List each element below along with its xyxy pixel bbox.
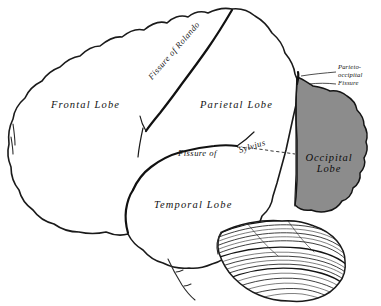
label-parietal-lobe: Parietal Lobe xyxy=(200,99,273,110)
label-parieto-occipital-fissure: Parieto- occipital Fissure xyxy=(338,63,362,88)
label-temporal-lobe: Temporal Lobe xyxy=(154,199,232,210)
label-occipital-lobe-line1: Occipital xyxy=(298,152,360,163)
label-occipital-lobe-line2: Lobe xyxy=(298,163,360,174)
label-parieto-occipital-line2: occipital xyxy=(338,71,362,79)
label-parieto-occipital-line3: Fissure xyxy=(338,79,362,87)
label-parieto-occipital-line1: Parieto- xyxy=(338,63,362,71)
brainstem-tick-2 xyxy=(184,284,191,286)
label-fissure-of-sylvius-prefix: Fissure of xyxy=(178,149,217,158)
parieto-occipital-leader-line-2 xyxy=(309,83,336,84)
brain-lobes-figure: Frontal Lobe Parietal Lobe Temporal Lobe… xyxy=(0,0,381,306)
label-occipital-lobe: Occipital Lobe xyxy=(298,152,360,174)
label-frontal-lobe: Frontal Lobe xyxy=(51,99,120,110)
occipital-lobe-region xyxy=(295,77,367,212)
parieto-occipital-leader-line xyxy=(301,72,336,76)
brainstem-tick-1 xyxy=(176,270,183,272)
